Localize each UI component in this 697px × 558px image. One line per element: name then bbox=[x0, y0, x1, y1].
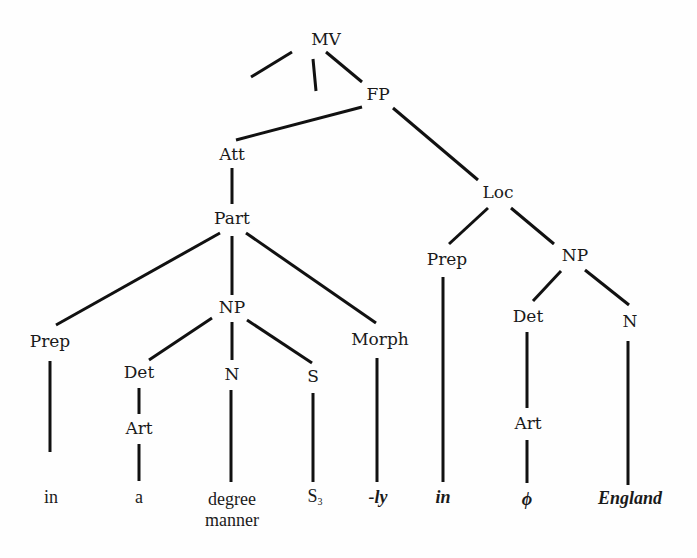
edge-np-s bbox=[247, 320, 312, 363]
node-det-right: Det bbox=[513, 307, 544, 327]
node-s-mid: S bbox=[307, 367, 319, 387]
edge-part-morph bbox=[246, 233, 376, 323]
edge-np-n-2 bbox=[585, 270, 629, 305]
node-fp: FP bbox=[366, 85, 389, 105]
leaf-degree: degree bbox=[205, 489, 259, 510]
syntax-tree-diagram: MV FP Att Part Loc Prep NP Morph Det N S… bbox=[0, 0, 697, 558]
leaf-degree-manner: degree manner bbox=[205, 489, 259, 530]
edge-fp-att bbox=[236, 107, 362, 140]
leaf-ly: -ly bbox=[369, 487, 388, 508]
node-art-right: Art bbox=[514, 414, 541, 434]
leaf-in: in bbox=[44, 487, 58, 508]
edge-mv-middle bbox=[313, 59, 316, 91]
node-det-left: Det bbox=[124, 363, 155, 383]
leaf-s3-base: S bbox=[307, 486, 317, 506]
edge-mv-fp bbox=[326, 52, 362, 82]
edge-fp-loc bbox=[393, 108, 478, 180]
node-prep-left: Prep bbox=[30, 332, 71, 352]
node-part: Part bbox=[214, 209, 250, 229]
node-n-mid: N bbox=[225, 365, 240, 385]
leaf-a: a bbox=[135, 487, 143, 508]
tree-edges bbox=[0, 0, 697, 558]
leaf-s3: S3 bbox=[307, 486, 322, 508]
edge-mv-left bbox=[251, 52, 292, 77]
node-n-right: N bbox=[623, 312, 638, 332]
edge-loc-prep bbox=[449, 208, 488, 244]
edge-np-det-2 bbox=[533, 271, 561, 301]
edge-part-prep bbox=[56, 233, 220, 325]
node-morph: Morph bbox=[351, 330, 409, 350]
edge-loc-np bbox=[511, 208, 554, 244]
leaf-in-2: in bbox=[435, 487, 450, 508]
node-loc: Loc bbox=[482, 183, 513, 203]
node-art-left: Art bbox=[125, 419, 152, 439]
node-mv: MV bbox=[311, 30, 341, 50]
leaf-england: England bbox=[598, 488, 662, 509]
leaf-phi: ϕ bbox=[522, 489, 532, 510]
leaf-manner: manner bbox=[205, 510, 259, 531]
node-prep-right: Prep bbox=[427, 250, 468, 270]
edge-np-det bbox=[149, 318, 212, 360]
node-np-mid: NP bbox=[219, 298, 245, 318]
leaf-s3-subscript: 3 bbox=[318, 496, 323, 507]
node-np-right: NP bbox=[562, 246, 588, 266]
node-att: Att bbox=[219, 145, 245, 165]
